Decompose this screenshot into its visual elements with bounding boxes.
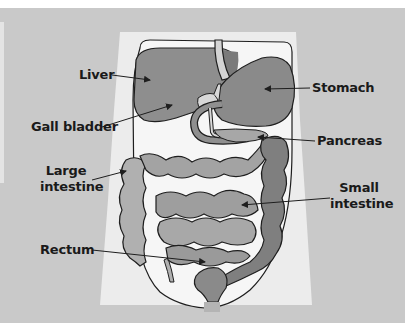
label-small-intestine-line2: intestine — [330, 196, 388, 212]
small-intestine — [156, 190, 258, 218]
label-large-intestine-line2: intestine — [40, 179, 92, 195]
label-large-intestine: Large intestine — [40, 163, 92, 195]
label-gall-bladder: Gall bladder — [31, 119, 118, 135]
label-liver: Liver — [79, 67, 114, 83]
label-stomach: Stomach — [312, 80, 374, 96]
label-small-intestine: Small intestine — [330, 180, 388, 212]
label-rectum: Rectum — [40, 242, 94, 258]
label-pancreas: Pancreas — [317, 133, 382, 149]
label-small-intestine-line1: Small — [330, 180, 388, 196]
label-large-intestine-line1: Large — [40, 163, 92, 179]
